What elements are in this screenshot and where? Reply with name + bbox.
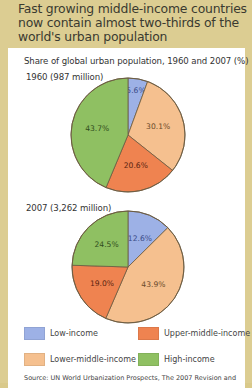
pie-slice-high-income [72,211,128,267]
legend-label: Low-income [50,329,98,338]
pie-slice-label: 12.6% [128,234,152,243]
pie-slice-label: 43.9% [141,280,165,289]
legend-swatch [138,353,159,366]
pie-slice-label: 24.5% [95,240,119,249]
legend-swatch [24,327,45,340]
legend-low-income: Low-income [24,327,98,340]
legend-swatch [138,327,159,340]
legend-swatch [24,353,45,366]
legend-lower-middle-income: Lower-middle-income [24,353,136,366]
pie-slice-label: 19.0% [90,279,114,288]
legend-upper-middle-income: Upper-middle-income [138,327,250,340]
legend-label: Upper-middle-income [164,329,250,338]
source-note: Source: UN World Urbanization Prospects,… [24,374,236,382]
legend-high-income: High-income [138,353,215,366]
legend-label: High-income [164,355,215,364]
legend-label: Lower-middle-income [50,355,136,364]
